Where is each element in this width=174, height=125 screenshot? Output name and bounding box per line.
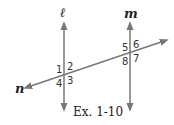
angle-4: 4 [56,78,62,89]
label-n: n [15,81,24,96]
line-n-transversal [25,40,167,88]
parallel-lines-transversal-diagram: ℓ m n 1 2 3 4 5 6 7 8 Ex. 1-10 [0,0,174,125]
angle-6: 6 [133,39,139,50]
angle-3: 3 [67,75,73,86]
label-m: m [124,6,138,21]
angle-5: 5 [122,42,128,53]
label-l: ℓ [60,5,66,20]
angle-8: 8 [122,56,128,67]
angle-7: 7 [133,53,139,64]
caption: Ex. 1-10 [73,105,123,119]
angle-2: 2 [67,61,73,72]
angle-1: 1 [56,64,62,75]
